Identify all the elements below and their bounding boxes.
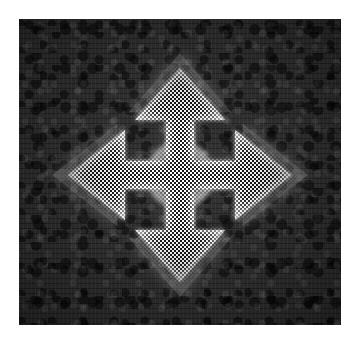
- move-arrow-icon[interactable]: [19, 19, 341, 325]
- move-arrow-svg: [19, 19, 341, 325]
- move-arrow-center-hotspot: [146, 141, 214, 209]
- screenshot-canvas: Four-way move arrow icon: [0, 0, 359, 342]
- dark-textured-panel: [19, 19, 341, 325]
